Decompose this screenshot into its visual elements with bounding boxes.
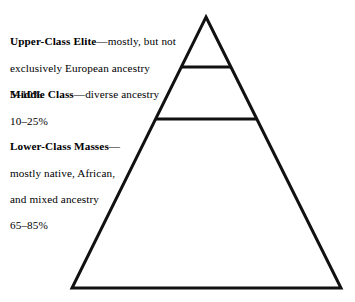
tier-percent-lower-class-masses: 65–85% [10, 219, 170, 232]
tier-dash: — [96, 35, 107, 47]
tier-percent-middle-class: 10–25% [10, 115, 215, 128]
tier-label-line: Middle Class—diverse ancestry [10, 88, 215, 101]
tier-description-line-1: mostly, but not [108, 35, 176, 47]
pyramid-diagram: Upper-Class Elite—mostly, but not exclus… [0, 0, 355, 302]
tier-title-upper-class-elite: Upper-Class Elite [10, 35, 96, 47]
tier-description-line-1: mostly native, African, [10, 167, 170, 180]
tier-label-line: Upper-Class Elite—mostly, but not [10, 35, 215, 48]
tier-title-lower-class-masses: Lower-Class Masses [10, 140, 109, 152]
tier-label-line: Lower-Class Masses— [10, 140, 170, 153]
tier-description-line-2: and mixed ancestry [10, 193, 170, 206]
tier-title-middle-class: Middle Class [10, 88, 74, 100]
tier-description-line-2: exclusively European ancestry [10, 62, 215, 75]
tier-dash: — [109, 140, 120, 152]
tier-dash: — [74, 88, 85, 100]
tier-description-line-1: diverse ancestry [85, 88, 159, 100]
tier-label-lower-class-masses: Lower-Class Masses— mostly native, Afric… [10, 127, 170, 246]
